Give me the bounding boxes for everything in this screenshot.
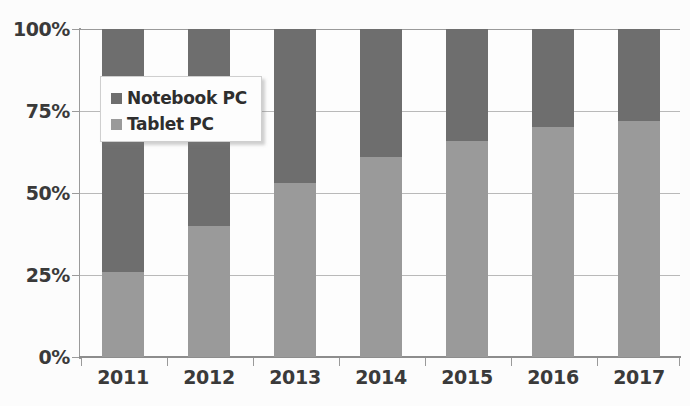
bar-segment-tablet — [102, 272, 144, 357]
bar-2014[interactable] — [360, 29, 402, 357]
y-tick-label-100: 100% — [4, 20, 70, 39]
x-tick-label-2013: 2013 — [255, 368, 335, 387]
legend-label: Notebook PC — [127, 90, 247, 107]
bar-segment-notebook — [446, 29, 488, 141]
bar-segment-notebook — [618, 29, 660, 121]
x-tick-mark-2016 — [511, 358, 512, 366]
x-tick-label-2012: 2012 — [169, 368, 249, 387]
bar-segment-tablet — [446, 141, 488, 357]
bar-segment-notebook — [532, 29, 574, 127]
bar-segment-tablet — [618, 121, 660, 357]
x-tick-label-2014: 2014 — [341, 368, 421, 387]
x-tick-mark-end — [679, 358, 680, 366]
bar-segment-notebook — [360, 29, 402, 157]
legend-item-notebook-pc[interactable]: Notebook PC — [111, 85, 261, 111]
x-tick-label-2016: 2016 — [513, 368, 593, 387]
x-tick-mark-2017 — [597, 358, 598, 366]
legend-swatch-icon — [111, 119, 122, 130]
bar-2016[interactable] — [532, 29, 574, 357]
chart-legend[interactable]: Notebook PC Tablet PC — [100, 76, 262, 142]
legend-label: Tablet PC — [127, 116, 214, 133]
x-tick-mark-2014 — [339, 358, 340, 366]
x-tick-mark-2011 — [81, 358, 82, 366]
bar-segment-tablet — [532, 127, 574, 357]
bar-segment-tablet — [274, 183, 316, 357]
x-tick-label-2015: 2015 — [427, 368, 507, 387]
y-tick-label-50: 50% — [4, 184, 70, 203]
stacked-bar-chart: 100% 75% 50% 25% 0% — [0, 0, 690, 406]
legend-item-tablet-pc[interactable]: Tablet PC — [111, 111, 261, 137]
bar-2015[interactable] — [446, 29, 488, 357]
x-tick-label-2017: 2017 — [599, 368, 679, 387]
bar-2017[interactable] — [618, 29, 660, 357]
x-tick-mark-2012 — [167, 358, 168, 366]
bar-segment-tablet — [188, 226, 230, 357]
x-tick-label-2011: 2011 — [83, 368, 163, 387]
y-tick-label-0: 0% — [4, 348, 70, 367]
y-tick-label-75: 75% — [4, 102, 70, 121]
legend-swatch-icon — [111, 93, 122, 104]
y-tick-label-25: 25% — [4, 266, 70, 285]
bar-segment-tablet — [360, 157, 402, 357]
bar-2013[interactable] — [274, 29, 316, 357]
bar-segment-notebook — [274, 29, 316, 183]
x-tick-mark-2013 — [253, 358, 254, 366]
x-tick-mark-2015 — [425, 358, 426, 366]
bar-segment-notebook — [102, 29, 144, 272]
